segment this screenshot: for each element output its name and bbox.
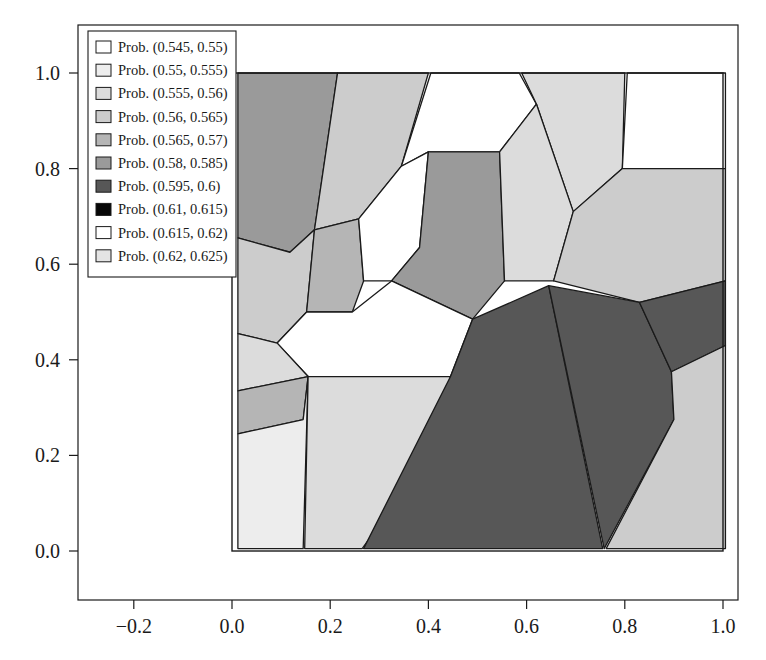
legend-item-label: Prob. (0.58, 0.585) xyxy=(118,155,228,172)
voronoi-chart-figure: −0.20.00.20.40.60.81.0 0.00.20.40.60.81.… xyxy=(0,0,766,660)
y-tick-label: 0.2 xyxy=(35,444,60,466)
legend-item-label: Prob. (0.62, 0.625) xyxy=(118,248,228,265)
legend-item-label: Prob. (0.56, 0.565) xyxy=(118,109,228,126)
y-tick-label: 0.8 xyxy=(35,158,60,180)
y-tick-label: 0.6 xyxy=(35,253,60,275)
y-tick-label: 0.4 xyxy=(35,349,60,371)
legend-swatch xyxy=(96,203,111,215)
legend-swatch xyxy=(96,250,111,262)
y-tick-label: 1.0 xyxy=(35,62,60,84)
legend-swatch xyxy=(96,111,111,123)
legend-item-label: Prob. (0.615, 0.62) xyxy=(118,225,228,242)
x-axis-ticks: −0.20.00.20.40.60.81.0 xyxy=(116,600,736,637)
x-tick-label: 0.4 xyxy=(416,615,441,637)
x-tick-label: 0.2 xyxy=(318,615,343,637)
legend-swatch xyxy=(96,180,111,192)
legend-swatch xyxy=(96,134,111,146)
legend-item-label: Prob. (0.595, 0.6) xyxy=(118,178,220,195)
x-tick-label: 0.8 xyxy=(612,615,637,637)
y-tick-label: 0.0 xyxy=(35,540,60,562)
legend-swatch xyxy=(96,87,111,99)
x-tick-label: 1.0 xyxy=(711,615,736,637)
voronoi-cell xyxy=(307,219,364,312)
legend-item-label: Prob. (0.55, 0.555) xyxy=(118,62,228,79)
legend-item-label: Prob. (0.555, 0.56) xyxy=(118,85,228,102)
y-axis-ticks: 0.00.20.40.60.81.0 xyxy=(35,62,78,562)
legend: Prob. (0.545, 0.55)Prob. (0.55, 0.555)Pr… xyxy=(88,31,236,277)
x-tick-label: −0.2 xyxy=(116,615,152,637)
legend-item-label: Prob. (0.61, 0.615) xyxy=(118,201,228,218)
x-tick-label: 0.0 xyxy=(220,615,245,637)
chart-canvas: −0.20.00.20.40.60.81.0 0.00.20.40.60.81.… xyxy=(0,0,766,660)
legend-item-label: Prob. (0.545, 0.55) xyxy=(118,39,228,56)
legend-item-label: Prob. (0.565, 0.57) xyxy=(118,132,228,149)
x-tick-label: 0.6 xyxy=(514,615,539,637)
legend-swatch xyxy=(96,41,111,53)
legend-swatch xyxy=(96,227,111,239)
legend-swatch xyxy=(96,64,111,76)
legend-swatch xyxy=(96,157,111,169)
voronoi-cell xyxy=(622,73,725,169)
